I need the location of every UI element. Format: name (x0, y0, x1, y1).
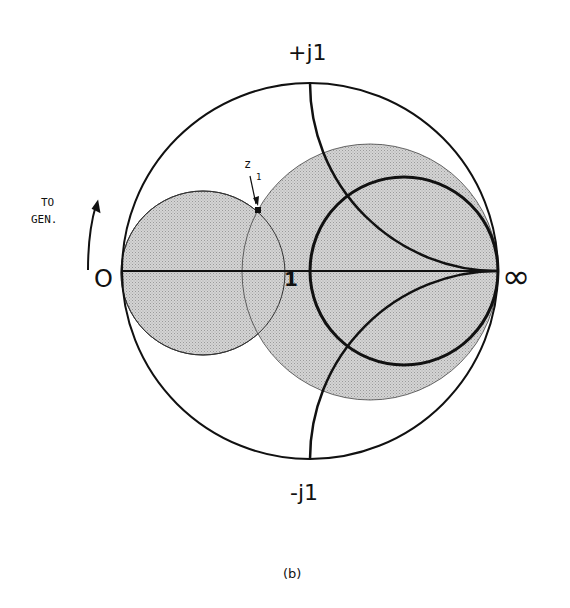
to-gen-line2: GEN. (31, 213, 58, 226)
to-gen-line1: TO (41, 196, 54, 209)
plus-j1-label: +j1 (288, 40, 327, 65)
to-gen-arrow-icon (88, 200, 101, 270)
zero-label: O (94, 265, 113, 293)
z1-arrow-head (253, 196, 259, 206)
z1-marker (255, 207, 261, 213)
figure-caption: (b) (283, 566, 301, 581)
z1-label: z (244, 157, 251, 171)
infinity-label: ∞ (502, 256, 530, 296)
z1-subscript: 1 (256, 172, 261, 182)
smith-chart-diagram: z 1 +j1 -j1 O ∞ 1 TO GEN. (b) (0, 0, 570, 608)
center-one-label: 1 (284, 267, 298, 291)
minus-j1-label: -j1 (290, 480, 318, 505)
